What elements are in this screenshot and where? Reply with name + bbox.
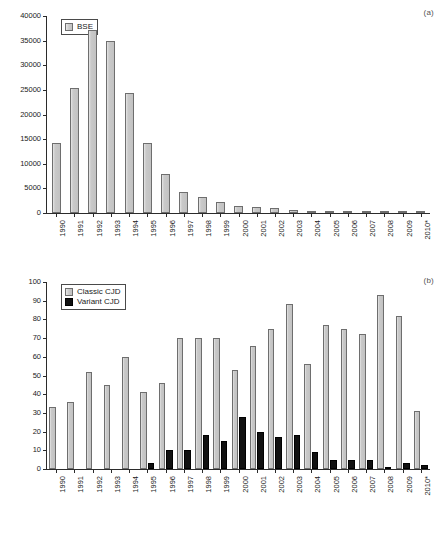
y-axis-tick bbox=[43, 139, 47, 140]
y-axis-tick bbox=[43, 319, 47, 320]
x-axis-tick bbox=[111, 469, 112, 473]
x-axis-tick bbox=[403, 469, 404, 473]
x-axis-tick bbox=[311, 469, 312, 473]
x-axis-label: 1998 bbox=[205, 220, 213, 237]
bar-classic-cjd-2000 bbox=[232, 370, 239, 469]
bar-classic-cjd-1991 bbox=[67, 402, 74, 469]
x-axis-label: 2000 bbox=[242, 220, 250, 237]
bar-bse-2002 bbox=[270, 208, 279, 213]
y-axis-tick bbox=[43, 282, 47, 283]
x-axis-tick bbox=[202, 213, 203, 217]
bar-classic-cjd-1996 bbox=[159, 383, 166, 469]
bar-bse-1990 bbox=[52, 143, 61, 213]
x-axis-label: 2001 bbox=[260, 220, 268, 237]
bar-bse-2001 bbox=[252, 207, 261, 213]
x-axis-tick bbox=[129, 469, 130, 473]
x-axis-tick bbox=[239, 213, 240, 217]
bar-variant-cjd-1995 bbox=[148, 463, 155, 469]
x-axis-label: 2005 bbox=[333, 476, 341, 493]
x-axis-tick bbox=[147, 213, 148, 217]
x-axis-tick bbox=[56, 469, 57, 473]
x-axis-label: 2007 bbox=[369, 476, 377, 493]
x-axis-tick bbox=[74, 213, 75, 217]
bar-classic-cjd-1997 bbox=[177, 338, 184, 469]
y-axis-label: 20 bbox=[33, 428, 41, 436]
bar-classic-cjd-1999 bbox=[213, 338, 220, 469]
y-axis-label: 10 bbox=[33, 447, 41, 455]
x-axis-tick bbox=[257, 213, 258, 217]
x-axis-tick bbox=[166, 213, 167, 217]
bar-variant-cjd-1998 bbox=[203, 435, 210, 469]
y-axis-tick bbox=[43, 65, 47, 66]
x-axis-tick bbox=[220, 469, 221, 473]
bar-classic-cjd-1993 bbox=[104, 385, 111, 469]
bar-bse-2005 bbox=[325, 211, 334, 213]
figure-bse-cjd-cases: (a) BSE 05000100001500020000250003000035… bbox=[0, 0, 444, 535]
y-axis-label: 100 bbox=[28, 278, 41, 286]
bar-variant-cjd-2003 bbox=[294, 435, 301, 469]
plot-area-b: Classic CJD Variant CJD 0102030405060708… bbox=[46, 282, 430, 470]
x-axis-label: 2003 bbox=[296, 476, 304, 493]
bar-variant-cjd-2000 bbox=[239, 417, 246, 469]
bar-bse-1993 bbox=[106, 41, 115, 213]
bar-bse-2006 bbox=[343, 211, 352, 213]
x-axis-tick bbox=[275, 469, 276, 473]
x-axis-label: 1993 bbox=[114, 476, 122, 493]
y-axis-label: 70 bbox=[33, 334, 41, 342]
x-axis-label: 1991 bbox=[77, 476, 85, 493]
bar-variant-cjd-2002 bbox=[275, 437, 282, 469]
x-axis-label: 2007 bbox=[369, 220, 377, 237]
x-axis-label: 1990 bbox=[59, 220, 67, 237]
x-axis-tick bbox=[421, 469, 422, 473]
bar-variant-cjd-1997 bbox=[184, 450, 191, 469]
y-axis-tick bbox=[43, 450, 47, 451]
x-axis-label: 2003 bbox=[296, 220, 304, 237]
bar-bse-2009 bbox=[398, 211, 407, 213]
legend-swatch-classic-cjd-icon bbox=[65, 288, 73, 296]
bar-bse-1996 bbox=[161, 174, 170, 213]
bar-classic-cjd-2004 bbox=[304, 364, 311, 469]
x-axis-label: 1992 bbox=[96, 220, 104, 237]
y-axis-label: 40 bbox=[33, 390, 41, 398]
x-axis-tick bbox=[129, 213, 130, 217]
y-axis-tick bbox=[43, 432, 47, 433]
x-axis-label: 1994 bbox=[132, 220, 140, 237]
y-axis-label: 25000 bbox=[20, 86, 41, 94]
y-axis-tick bbox=[43, 357, 47, 358]
y-axis-tick bbox=[43, 469, 47, 470]
y-axis-tick bbox=[43, 301, 47, 302]
x-axis-label: 1999 bbox=[223, 220, 231, 237]
x-axis-label: 1997 bbox=[187, 476, 195, 493]
x-axis-label: 1990 bbox=[59, 476, 67, 493]
x-axis-label: 2009 bbox=[406, 220, 414, 237]
bar-classic-cjd-2010 bbox=[414, 411, 421, 469]
x-axis-label: 2009 bbox=[406, 476, 414, 493]
y-axis-tick bbox=[43, 394, 47, 395]
x-axis-label: 1996 bbox=[169, 220, 177, 237]
bar-variant-cjd-2004 bbox=[312, 452, 319, 469]
bar-variant-cjd-2007 bbox=[367, 460, 374, 469]
bar-bse-1998 bbox=[198, 197, 207, 213]
x-axis-label: 2005 bbox=[333, 220, 341, 237]
x-axis-tick bbox=[330, 213, 331, 217]
y-axis-label: 5000 bbox=[24, 185, 41, 193]
bar-bse-2007 bbox=[362, 211, 371, 213]
bar-classic-cjd-1990 bbox=[49, 407, 56, 469]
x-axis-tick bbox=[257, 469, 258, 473]
bar-classic-cjd-2002 bbox=[268, 329, 275, 469]
legend-label-variant-cjd: Variant CJD bbox=[77, 298, 120, 306]
x-axis-label: 1997 bbox=[187, 220, 195, 237]
bar-variant-cjd-2001 bbox=[257, 432, 264, 469]
y-axis-tick bbox=[43, 41, 47, 42]
x-axis-label: 2001 bbox=[260, 476, 268, 493]
x-axis-label: 1995 bbox=[150, 476, 158, 493]
x-axis-tick bbox=[311, 213, 312, 217]
x-axis-tick bbox=[366, 213, 367, 217]
bar-bse-1994 bbox=[125, 93, 134, 213]
x-axis-tick bbox=[93, 469, 94, 473]
x-axis-label: 2006 bbox=[351, 220, 359, 237]
x-axis-tick bbox=[366, 469, 367, 473]
y-axis-label: 15000 bbox=[20, 135, 41, 143]
bar-variant-cjd-1996 bbox=[166, 450, 173, 469]
x-axis-tick bbox=[421, 213, 422, 217]
